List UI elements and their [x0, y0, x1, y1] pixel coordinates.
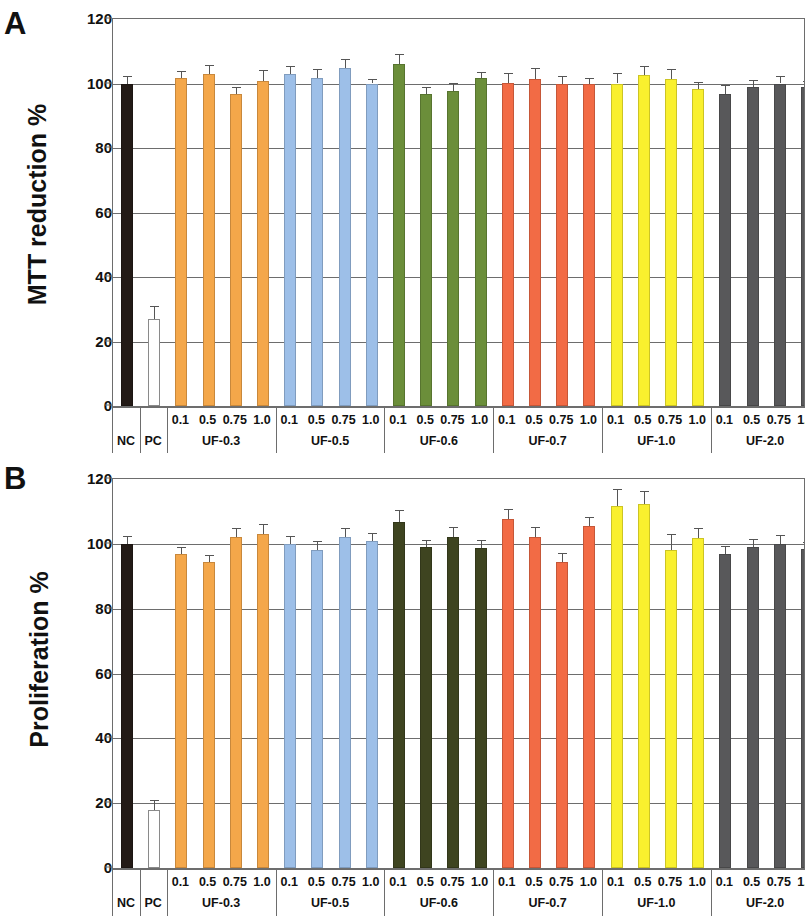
error-bar-cap	[395, 510, 404, 511]
concentration-label: 0.1	[498, 875, 515, 889]
bar	[257, 81, 269, 406]
y-axis-tick-mark	[105, 867, 112, 868]
error-bar	[345, 59, 346, 68]
y-axis-tick-label: 0	[52, 397, 112, 414]
error-bar-cap	[205, 555, 214, 556]
group-label: UF-2.0	[746, 434, 784, 448]
group-separator	[384, 869, 385, 916]
category-axis-rule	[112, 407, 805, 408]
y-axis-tick-label: 120	[52, 10, 112, 27]
concentration-label: 0.1	[172, 875, 189, 889]
concentration-label: 1.0	[362, 875, 379, 889]
y-axis-tick-mark	[105, 478, 112, 479]
group-label: UF-0.5	[311, 434, 349, 448]
error-bar-cap	[504, 509, 513, 510]
concentration-label: 0.1	[172, 413, 189, 427]
group-label: NC	[117, 434, 135, 448]
y-axis-tick-label: 60	[52, 203, 112, 220]
bar	[692, 538, 704, 868]
bar	[175, 554, 187, 868]
group-separator	[112, 869, 113, 916]
error-bar-cap	[422, 87, 431, 88]
error-bar	[426, 540, 427, 547]
bar	[475, 78, 487, 406]
panel-a: A MTT reduction % 020406080100120 NCPC0.…	[0, 0, 805, 455]
error-bar	[154, 800, 155, 810]
error-bar	[589, 517, 590, 526]
error-bar-cap	[640, 66, 649, 67]
error-bar	[290, 66, 291, 74]
bar	[665, 79, 677, 406]
bar	[257, 534, 269, 868]
error-bar-cap	[585, 78, 594, 79]
group-separator	[112, 407, 113, 453]
panel-a-y-axis: 020406080100120	[40, 18, 112, 407]
error-bar-cap	[531, 68, 540, 69]
y-axis-tick-mark	[105, 405, 112, 406]
error-bar-cap	[477, 72, 486, 73]
group-separator	[140, 407, 141, 453]
bar	[203, 74, 215, 406]
concentration-label: 0.75	[331, 875, 355, 889]
error-bar-cap	[558, 76, 567, 77]
error-bar	[725, 546, 726, 554]
error-bar-cap	[694, 82, 703, 83]
panel-b-plot-area	[112, 478, 805, 869]
concentration-label: 0.1	[389, 875, 406, 889]
error-bar-cap	[341, 59, 350, 60]
error-bar	[535, 68, 536, 78]
error-bar-cap	[721, 546, 730, 547]
bar	[529, 537, 541, 868]
concentration-label: 0.1	[716, 413, 733, 427]
y-axis-tick-label: 40	[52, 268, 112, 285]
bar	[393, 64, 405, 406]
error-bar	[453, 83, 454, 90]
concentration-label: 0.75	[331, 413, 355, 427]
group-label: NC	[117, 896, 135, 910]
error-bar	[780, 76, 781, 83]
bar	[366, 84, 378, 407]
group-separator	[167, 869, 168, 916]
error-bar-cap	[449, 527, 458, 528]
concentration-label: 1.0	[253, 413, 270, 427]
y-axis-tick-mark	[105, 672, 112, 673]
concentration-label: 0.5	[308, 413, 325, 427]
bar	[747, 87, 759, 406]
error-bar-cap	[721, 85, 730, 86]
error-bar-cap	[640, 491, 649, 492]
error-bar	[236, 87, 237, 94]
group-separator	[384, 407, 385, 453]
error-bar	[453, 527, 454, 537]
error-bar	[644, 491, 645, 504]
concentration-label: 0.75	[223, 413, 247, 427]
error-bar-cap	[232, 528, 241, 529]
group-label: PC	[145, 896, 162, 910]
y-axis-tick-mark	[105, 82, 112, 83]
error-bar	[263, 70, 264, 81]
bar	[230, 94, 242, 406]
error-bar-cap	[395, 54, 404, 55]
concentration-label: 0.1	[607, 875, 624, 889]
error-bar-cap	[259, 70, 268, 71]
error-bar	[426, 87, 427, 94]
bar	[284, 74, 296, 406]
panel-b-letter: B	[4, 461, 26, 497]
error-bar-cap	[613, 73, 622, 74]
error-bar-cap	[368, 533, 377, 534]
bar	[638, 504, 650, 868]
error-bar-cap	[667, 534, 676, 535]
error-bar-cap	[558, 553, 567, 554]
figure-root: A MTT reduction % 020406080100120 NCPC0.…	[0, 0, 805, 916]
error-bar-cap	[313, 69, 322, 70]
error-bar-cap	[123, 536, 132, 537]
concentration-label: 0.75	[440, 413, 464, 427]
bar	[692, 89, 704, 406]
error-bar	[562, 76, 563, 84]
error-bar-cap	[749, 80, 758, 81]
concentration-label: 0.5	[525, 413, 542, 427]
error-bar	[725, 85, 726, 93]
y-axis-tick-mark	[105, 542, 112, 543]
error-bar	[698, 528, 699, 538]
bar	[203, 562, 215, 868]
concentration-label: 1.0	[253, 875, 270, 889]
